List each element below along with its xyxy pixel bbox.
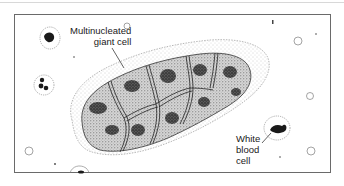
nucleus — [165, 112, 179, 124]
label-giant-line1: Multinucleated — [70, 25, 131, 36]
ring-particle — [294, 37, 302, 45]
nucleus — [193, 64, 207, 76]
nucleus — [89, 102, 107, 114]
label-wbc-line1: White — [236, 133, 260, 144]
nucleus — [105, 125, 119, 135]
label-wbc-line3: cell — [236, 155, 260, 166]
label-wbc-line2: blood — [236, 144, 260, 155]
nucleus — [231, 88, 241, 96]
white-blood-cell — [70, 166, 89, 174]
ring-particle — [307, 147, 315, 155]
label-giant-line2: giant cell — [70, 36, 131, 47]
nucleus — [131, 124, 145, 136]
nucleus — [124, 80, 140, 92]
white-blood-cell — [34, 75, 54, 95]
label-white-blood-cell: White blood cell — [236, 133, 260, 166]
nucleus — [160, 69, 176, 83]
ring-particle — [25, 147, 33, 155]
illustration — [0, 0, 344, 186]
ring-particle — [307, 93, 314, 100]
white-blood-cell — [40, 27, 60, 49]
nucleus — [198, 97, 210, 107]
label-multinucleated-giant-cell: Multinucleated giant cell — [70, 25, 131, 47]
nucleus — [223, 66, 237, 78]
